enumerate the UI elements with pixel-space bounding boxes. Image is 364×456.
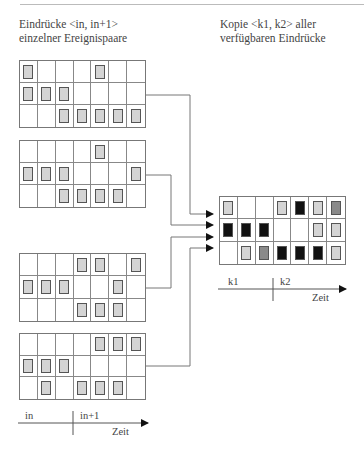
left-axis-label-in: in bbox=[25, 410, 33, 421]
left-axis-time-label: Zeit bbox=[112, 426, 129, 437]
right-axis-time-label: Zeit bbox=[312, 292, 329, 303]
connector-arrows bbox=[0, 0, 364, 456]
right-axis-label-k2: k2 bbox=[280, 276, 291, 287]
right-axis-label-k1: k1 bbox=[228, 276, 239, 287]
left-axis-label-in1: in+1 bbox=[80, 410, 99, 421]
